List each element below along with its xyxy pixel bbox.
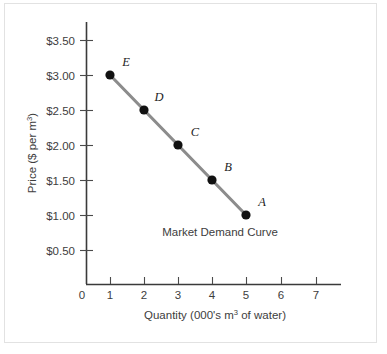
data-point-label-E: E — [121, 55, 130, 69]
x-ticks-group — [111, 277, 317, 284]
y-tick-label-2.50: $2.50 — [46, 105, 75, 117]
y-tick-label-0.50: $0.50 — [46, 245, 75, 257]
x-tick-labels-group: 0 1 2 3 4 5 6 7 — [79, 289, 319, 301]
x-tick-label-3: 3 — [175, 289, 181, 301]
chart-screenshot: $3.50 $3.00 $2.50 $2.00 $1.50 $1.00 $0.5… — [0, 0, 387, 354]
y-axis-title-post: ) — [26, 113, 38, 117]
data-point-D[interactable] — [139, 105, 148, 114]
data-point-E[interactable] — [105, 70, 114, 79]
y-axis-title-pre: Price ($ per m — [26, 121, 38, 193]
data-point-label-B: B — [224, 160, 232, 174]
y-tick-label-3.50: $3.50 — [46, 35, 75, 47]
x-axis-title: Quantity (000's m3 of water) — [144, 308, 286, 321]
data-point-C[interactable] — [173, 140, 182, 149]
data-point-labels-group: E D C B A — [121, 55, 266, 209]
x-tick-label-1: 1 — [107, 289, 113, 301]
y-tick-label-2.00: $2.00 — [46, 140, 75, 152]
x-tick-label-2: 2 — [141, 289, 147, 301]
y-tick-label-1.00: $1.00 — [46, 210, 75, 222]
x-axis-title-pre: Quantity (000's m — [144, 309, 234, 321]
y-tick-label-3.00: $3.00 — [46, 70, 75, 82]
y-tick-label-1.50: $1.50 — [46, 175, 75, 187]
data-point-A[interactable] — [241, 210, 250, 219]
x-axis-title-post: of water) — [238, 309, 286, 321]
data-point-label-C: C — [191, 125, 200, 139]
data-point-label-D: D — [153, 90, 163, 104]
x-tick-label-5: 5 — [243, 289, 249, 301]
x-tick-label-4: 4 — [209, 289, 216, 301]
data-point-label-A: A — [257, 195, 266, 209]
x-tick-label-6: 6 — [278, 289, 284, 301]
data-point-B[interactable] — [207, 175, 216, 184]
demand-curve-chart: $3.50 $3.00 $2.50 $2.00 $1.50 $1.00 $0.5… — [0, 0, 387, 354]
y-axis-title: Price ($ per m3) — [25, 113, 38, 193]
x-tick-label-0: 0 — [79, 289, 85, 301]
x-tick-label-7: 7 — [313, 289, 319, 301]
market-demand-curve-annotation: Market Demand Curve — [162, 226, 278, 238]
y-tick-labels-group: $3.50 $3.00 $2.50 $2.00 $1.50 $1.00 $0.5… — [46, 35, 75, 257]
